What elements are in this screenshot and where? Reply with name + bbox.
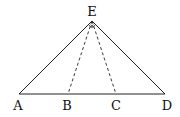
label-E: E <box>87 4 97 19</box>
label-D: D <box>162 98 172 113</box>
segment-EB-dashed <box>68 21 92 94</box>
segment-ED <box>92 21 165 94</box>
label-A: A <box>12 98 23 113</box>
label-B: B <box>62 98 72 113</box>
segment-EC-dashed <box>92 21 116 94</box>
label-C: C <box>111 98 121 113</box>
geometry-diagram: E A B C D <box>0 0 180 117</box>
segment-AE <box>19 21 92 94</box>
